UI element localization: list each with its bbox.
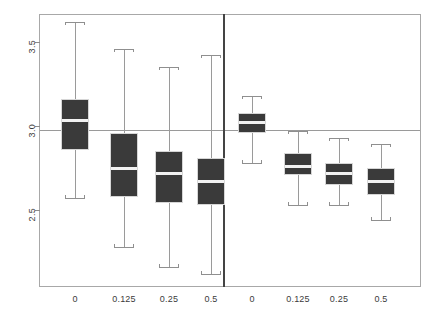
whisker-cap-upper-tick xyxy=(178,67,179,70)
whisker-cap-lower-tick xyxy=(390,217,391,220)
whisker-lower xyxy=(124,197,125,247)
whisker-cap-upper xyxy=(65,22,85,23)
box-iqr xyxy=(155,151,183,203)
whisker-cap-upper-tick xyxy=(371,144,372,147)
whisker-cap-upper xyxy=(201,55,221,56)
median-bar xyxy=(62,119,88,122)
x-tick-label: 0.125 xyxy=(112,294,136,304)
whisker-cap-lower xyxy=(371,220,391,221)
whisker-lower xyxy=(252,133,253,163)
y-axis: 2.53.03.5 xyxy=(0,0,40,316)
whisker-cap-lower-tick xyxy=(84,195,85,198)
x-tick-label: 0.25 xyxy=(330,294,348,304)
whisker-cap-lower xyxy=(288,205,308,206)
whisker-cap-lower-tick xyxy=(159,264,160,267)
whisker-cap-upper-tick xyxy=(84,22,85,25)
x-axis: 00.1250.250.500.1250.250.5 xyxy=(0,288,435,316)
whisker-cap-lower-tick xyxy=(242,160,243,163)
x-tick-label: 0.5 xyxy=(204,294,217,304)
whisker-lower xyxy=(381,195,382,220)
whisker-lower xyxy=(169,203,170,267)
plot-frame xyxy=(39,14,421,287)
whisker-upper xyxy=(124,49,125,133)
whisker-upper xyxy=(211,55,212,157)
median-bar xyxy=(326,172,352,175)
whisker-cap-lower-tick xyxy=(114,244,115,247)
whisker-cap-upper-tick xyxy=(348,138,349,141)
whisker-cap-upper xyxy=(242,96,262,97)
x-tick-label: 0.125 xyxy=(286,294,310,304)
whisker-cap-lower-tick xyxy=(329,202,330,205)
whisker-cap-upper-tick xyxy=(261,96,262,99)
whisker-lower xyxy=(339,185,340,205)
whisker-cap-lower-tick xyxy=(220,271,221,274)
x-tick-label: 0 xyxy=(72,294,77,304)
whisker-cap-lower-tick xyxy=(261,160,262,163)
median-bar xyxy=(239,121,265,124)
box-iqr xyxy=(284,153,312,175)
whisker-cap-lower xyxy=(201,274,221,275)
x-tick-label: 0.5 xyxy=(374,294,387,304)
reference-line-3 xyxy=(40,130,420,131)
whisker-cap-upper xyxy=(288,131,308,132)
whisker-cap-upper-tick xyxy=(133,49,134,52)
whisker-cap-upper-tick xyxy=(288,131,289,134)
whisker-cap-lower-tick xyxy=(307,202,308,205)
panel-divider xyxy=(223,14,225,287)
box-iqr xyxy=(110,133,138,197)
whisker-cap-lower-tick xyxy=(133,244,134,247)
whisker-cap-lower-tick xyxy=(371,217,372,220)
boxplot-figure: 2.53.03.5 00.1250.250.500.1250.250.5 xyxy=(0,0,435,316)
whisker-cap-upper xyxy=(371,144,391,145)
whisker-upper xyxy=(252,96,253,113)
x-tick-label: 0.25 xyxy=(160,294,178,304)
whisker-cap-lower-tick xyxy=(288,202,289,205)
whisker-upper xyxy=(339,138,340,163)
whisker-cap-lower xyxy=(329,205,349,206)
whisker-cap-lower-tick xyxy=(201,271,202,274)
whisker-cap-upper-tick xyxy=(114,49,115,52)
whisker-cap-lower-tick xyxy=(178,264,179,267)
median-bar xyxy=(198,180,224,183)
whisker-cap-upper xyxy=(114,49,134,50)
box-iqr xyxy=(61,99,89,149)
whisker-cap-upper-tick xyxy=(220,55,221,58)
whisker-cap-lower xyxy=(159,267,179,268)
whisker-cap-upper-tick xyxy=(65,22,66,25)
whisker-cap-lower xyxy=(242,163,262,164)
whisker-cap-upper-tick xyxy=(159,67,160,70)
whisker-cap-upper xyxy=(159,67,179,68)
whisker-lower xyxy=(75,150,76,199)
whisker-cap-upper-tick xyxy=(390,144,391,147)
median-bar xyxy=(285,165,311,168)
whisker-cap-lower-tick xyxy=(348,202,349,205)
whisker-cap-upper-tick xyxy=(307,131,308,134)
whisker-upper xyxy=(298,131,299,153)
y-tick-label: 3.0 xyxy=(27,124,37,137)
x-tick-label: 0 xyxy=(249,294,254,304)
y-tick-label: 2.5 xyxy=(27,208,37,221)
median-bar xyxy=(111,167,137,170)
whisker-cap-lower-tick xyxy=(65,195,66,198)
whisker-lower xyxy=(298,175,299,205)
whisker-cap-upper xyxy=(329,138,349,139)
whisker-cap-upper-tick xyxy=(201,55,202,58)
whisker-upper xyxy=(381,144,382,168)
whisker-upper xyxy=(75,22,76,99)
y-tick-label: 3.5 xyxy=(27,40,37,53)
whisker-cap-upper-tick xyxy=(329,138,330,141)
whisker-upper xyxy=(169,67,170,151)
median-bar xyxy=(368,180,394,183)
whisker-cap-lower xyxy=(65,198,85,199)
whisker-cap-lower xyxy=(114,247,134,248)
whisker-lower xyxy=(211,205,212,274)
median-bar xyxy=(156,172,182,175)
whisker-cap-upper-tick xyxy=(242,96,243,99)
